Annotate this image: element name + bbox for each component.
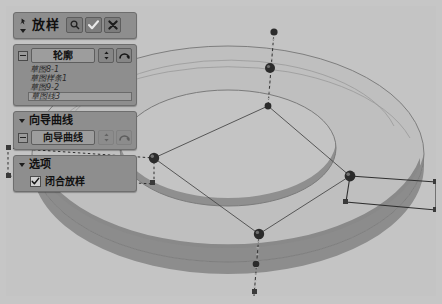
pushpin-icon[interactable]	[19, 18, 28, 29]
profiles-group: 轮廓	[13, 44, 137, 106]
options-section-label: 选项	[29, 159, 51, 171]
profiles-selection-box[interactable]: 轮廓	[31, 48, 95, 63]
profiles-list[interactable]: 草图8-1 草图样条1 草图9-2 草图线3	[28, 65, 132, 101]
close-loft-checkbox-row[interactable]: 闭合放样	[18, 176, 132, 187]
profile-bottom-marker	[254, 229, 264, 239]
checkmark-icon[interactable]	[85, 17, 102, 33]
close-icon[interactable]	[104, 17, 121, 33]
property-manager-panel[interactable]: 放样	[13, 12, 137, 197]
reverse-direction-icon[interactable]	[116, 48, 132, 63]
profile-right-marker	[345, 171, 356, 182]
profiles-selection-row[interactable]: 轮廓	[18, 48, 132, 63]
profiles-field-value: 轮廓	[53, 50, 73, 61]
preview-icon[interactable]	[66, 17, 83, 33]
panel-title-group: 放样	[13, 12, 137, 39]
list-item[interactable]: 草图样条1	[28, 74, 132, 83]
guide-curves-selection-box[interactable]: 向导曲线	[31, 130, 95, 145]
chevron-down-icon[interactable]	[20, 29, 26, 33]
move-up-down-icon[interactable]	[98, 48, 114, 63]
guide-curves-selection-row[interactable]: 向导曲线	[18, 130, 132, 145]
chevron-down-icon[interactable]	[19, 163, 25, 167]
guide-curves-field-value: 向导曲线	[43, 132, 83, 143]
checkbox-checked-icon[interactable]	[30, 176, 41, 187]
guide-curves-group: 向导曲线 向导曲线	[13, 111, 137, 150]
options-group: 选项 闭合放样	[13, 155, 137, 192]
list-item[interactable]: 草图8-1	[28, 65, 132, 74]
chevron-down-icon[interactable]	[19, 119, 25, 123]
profiles-expander-icon[interactable]	[18, 51, 28, 61]
reverse-direction-icon[interactable]	[116, 130, 132, 145]
list-item[interactable]: 草图线3	[28, 92, 132, 101]
profile-left-marker	[149, 153, 159, 163]
guide-curves-section-label: 向导曲线	[29, 115, 73, 127]
profile-top-marker	[265, 63, 275, 73]
cad-application-window: 放样	[0, 0, 442, 304]
close-loft-label: 闭合放样	[45, 176, 85, 187]
guide-curves-expander-icon[interactable]	[18, 133, 28, 143]
move-up-down-icon[interactable]	[98, 130, 114, 145]
list-item[interactable]: 草图9-2	[28, 83, 132, 92]
panel-title: 放样	[32, 18, 59, 32]
